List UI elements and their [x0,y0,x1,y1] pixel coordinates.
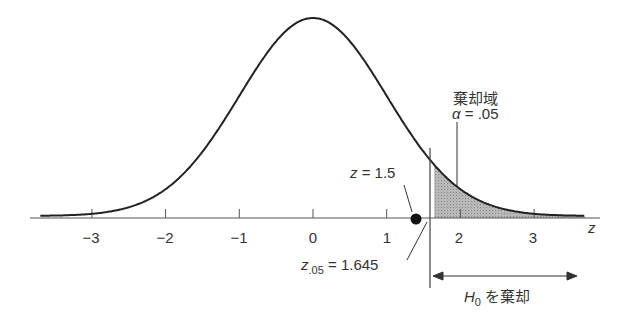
reject-h0-arrow [433,272,577,280]
critical-z-label: z.05 = 1.645 [301,256,378,276]
z-obs-pointer [404,185,412,212]
z-crit-pointer [407,222,427,260]
alpha-label: α = .05 [452,105,499,122]
observed-z-label: z = 1.5 [350,164,395,181]
tick-label-1: 1 [383,229,391,246]
tick-label-3: 3 [529,229,537,246]
normal-curve [40,18,584,216]
reject-h0-label: H0 を棄却 [464,285,530,308]
axis-label-z: z [588,219,596,236]
observed-z-dot [411,214,422,225]
tick-label-neg1: −1 [230,229,247,246]
tick-label-neg3: −3 [82,229,99,246]
tick-label-2: 2 [455,229,463,246]
tick-label-neg2: −2 [156,229,173,246]
tick-label-0: 0 [309,229,317,246]
